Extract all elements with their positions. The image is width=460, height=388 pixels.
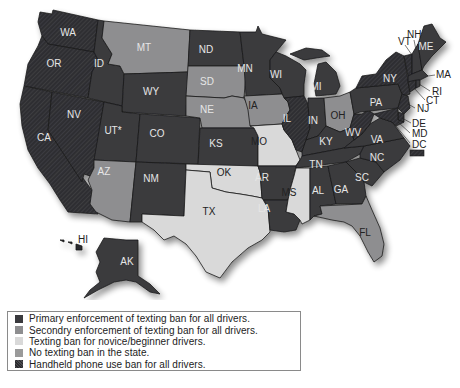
legend-swatch-novice (15, 337, 23, 345)
legend: Primary enforcement of texting ban for a… (7, 311, 301, 371)
svg-text:VA: VA (371, 134, 384, 145)
state-NM[interactable] (130, 162, 186, 222)
svg-text:OK: OK (217, 167, 232, 178)
svg-text:NE: NE (200, 104, 214, 115)
us-texting-law-map: WA OR CA NV ID MT WY UT* CO AZ NM ND SD … (0, 0, 460, 300)
svg-text:NC: NC (370, 152, 384, 163)
svg-text:TX: TX (203, 206, 216, 217)
legend-swatch-handheld (15, 360, 23, 368)
svg-text:GA: GA (334, 184, 349, 195)
legend-label: Primary enforcement of texting ban for a… (29, 313, 250, 324)
svg-text:IA: IA (248, 100, 258, 111)
svg-text:AK: AK (120, 256, 134, 267)
svg-text:HI: HI (78, 234, 88, 245)
svg-text:MS: MS (282, 187, 297, 198)
legend-swatch-secondary (15, 326, 23, 334)
svg-text:DC: DC (412, 139, 426, 150)
legend-item-none: No texting ban in the state. (8, 347, 300, 358)
state-ND[interactable] (188, 30, 244, 66)
svg-text:MA: MA (436, 69, 451, 80)
svg-text:CA: CA (37, 132, 51, 143)
legend-item-novice: Texting ban for novice/beginner drivers. (8, 336, 300, 347)
svg-text:ME: ME (419, 41, 434, 52)
svg-text:WY: WY (143, 86, 159, 97)
svg-text:MI: MI (310, 81, 321, 92)
svg-text:MD: MD (412, 128, 428, 139)
legend-item-handheld: Handheld phone use ban for all drivers. (8, 359, 300, 370)
svg-text:NH: NH (407, 29, 421, 40)
legend-swatch-primary (15, 315, 23, 323)
svg-text:WV: WV (345, 127, 361, 138)
svg-text:LA: LA (258, 203, 271, 214)
state-KS[interactable] (198, 128, 258, 166)
legend-item-primary: Primary enforcement of texting ban for a… (8, 313, 300, 324)
legend-label: No texting ban in the state. (29, 347, 149, 358)
svg-text:KY: KY (319, 136, 333, 147)
svg-text:IL: IL (283, 113, 292, 124)
state-AK[interactable] (84, 238, 160, 298)
svg-text:NM: NM (143, 173, 159, 184)
svg-text:MN: MN (237, 63, 253, 74)
svg-text:FL: FL (359, 227, 371, 238)
legend-label: Handheld phone use ban for all drivers. (29, 359, 206, 370)
svg-text:NY: NY (383, 73, 397, 84)
svg-text:ND: ND (199, 44, 213, 55)
state-FL[interactable] (314, 196, 384, 262)
svg-text:CO: CO (150, 128, 165, 139)
svg-text:MO: MO (251, 136, 267, 147)
svg-text:TN: TN (309, 159, 322, 170)
svg-text:UT*: UT* (104, 125, 121, 136)
svg-text:PA: PA (370, 97, 383, 108)
svg-text:NV: NV (67, 109, 81, 120)
svg-text:AL: AL (312, 185, 325, 196)
legend-swatch-none (15, 349, 23, 357)
svg-text:AR: AR (255, 172, 269, 183)
svg-text:KS: KS (209, 138, 223, 149)
svg-text:NJ: NJ (417, 103, 429, 114)
dc-swatch (410, 150, 424, 156)
svg-text:OR: OR (47, 58, 62, 69)
svg-text:IN: IN (308, 115, 318, 126)
state-CO[interactable] (136, 114, 200, 164)
svg-text:MT: MT (137, 42, 151, 53)
svg-text:ID: ID (94, 58, 104, 69)
svg-text:SD: SD (200, 76, 214, 87)
svg-text:OH: OH (331, 110, 346, 121)
legend-label: Texting ban for novice/beginner drivers. (29, 336, 206, 347)
legend-item-secondary: Secondry enforcement of texting ban for … (8, 324, 300, 335)
svg-text:WI: WI (270, 69, 282, 80)
svg-text:SC: SC (355, 172, 369, 183)
svg-text:AZ: AZ (98, 166, 111, 177)
legend-label: Secondry enforcement of texting ban for … (29, 325, 258, 336)
svg-text:WA: WA (60, 27, 76, 38)
